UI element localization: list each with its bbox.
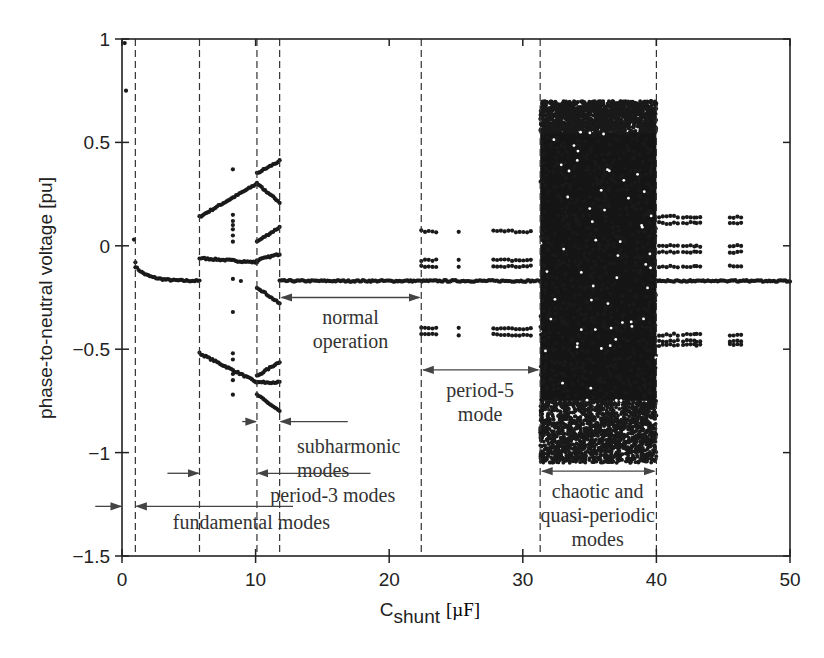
annotation-label: subharmonic [297,435,400,457]
annotation-label: chaotic and [552,480,644,502]
annotation-label: modes [297,459,349,481]
annotation-label: normal [322,306,379,328]
x-axis-title: Cshunt[µF] [380,599,480,627]
annotation-label: fundamental modes [173,511,330,533]
y-tick-label: −0.5 [72,339,110,360]
annotation-label: mode [458,403,503,425]
x-tick-label: 0 [117,569,128,590]
y-tick-label: −1.5 [72,546,110,567]
annotation-label: modes [572,528,624,550]
x-axis-title-unit: [µF] [446,599,480,620]
x-tick-label: 20 [379,569,400,590]
plot-frame [122,39,790,556]
y-tick-label: 1 [99,29,110,50]
x-tick-label: 30 [512,569,533,590]
x-tick-label: 10 [245,569,266,590]
annotation-label: period-5 [446,379,514,402]
x-axis-title-main: C [380,599,394,620]
x-tick-label: 50 [779,569,800,590]
annotation-label: operation [313,330,389,353]
y-tick-label: 0.5 [84,132,110,153]
bifurcation-chart: normaloperationperiod-5modesubharmonicmo… [0,0,824,658]
y-axis-title: phase-to-neutral voltage [pu] [35,177,56,419]
x-axis-title-subscript: shunt [394,606,441,627]
annotation-label: period-3 modes [270,484,395,507]
y-tick-label: 0 [99,236,110,257]
annotation-label: quasi-periodic [540,504,655,527]
x-tick-label: 40 [646,569,667,590]
y-tick-label: −1 [88,443,110,464]
data-points [123,41,793,465]
